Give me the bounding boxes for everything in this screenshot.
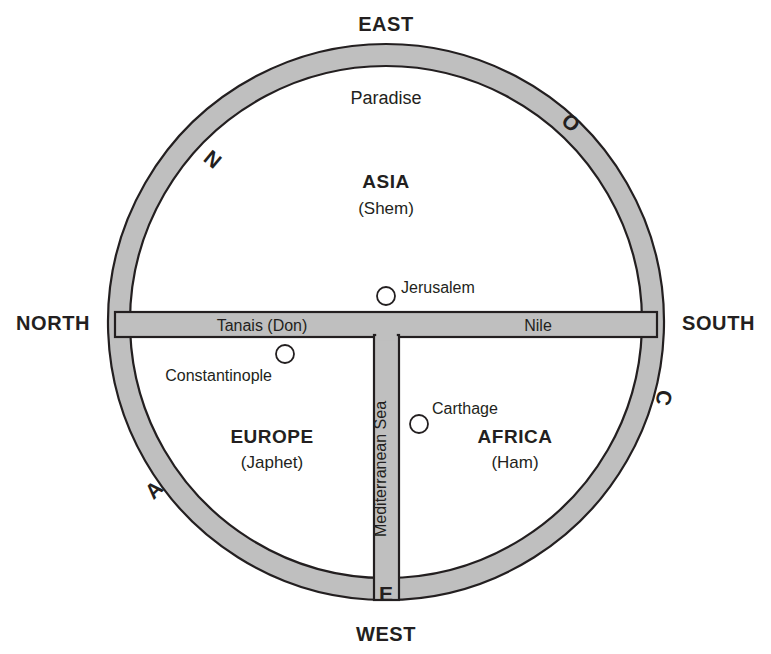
city-marker-jerusalem [377,287,395,305]
city-label-constantinople: Constantinople [165,367,272,384]
ocean-letter-e: E [379,582,393,605]
city-label-jerusalem: Jerusalem [401,279,475,296]
city-label-carthage: Carthage [432,400,498,417]
compass-label-west: WEST [356,623,416,645]
ocean-letter-n: N [200,146,226,173]
t-o-map-svg: EAST WEST NORTH SOUTH O C E A N Paradise… [0,0,771,654]
compass-label-north: NORTH [16,312,90,334]
t-junction-patch [376,314,397,340]
water-label-mediterranean: Mediterranean Sea [372,401,389,537]
continent-son-asia: (Shem) [358,199,414,218]
continent-label-africa: AFRICA [478,426,553,447]
city-marker-constantinople [276,345,294,363]
continent-son-europe: (Japhet) [241,453,303,472]
ocean-letter-c: C [651,388,677,408]
paradise-label: Paradise [350,88,421,108]
continent-son-africa: (Ham) [491,453,538,472]
continent-label-europe: EUROPE [230,426,313,447]
water-label-nile: Nile [524,317,552,334]
continent-label-asia: ASIA [362,171,409,192]
t-o-map-figure: EAST WEST NORTH SOUTH O C E A N Paradise… [0,0,771,654]
city-marker-carthage [410,415,428,433]
compass-label-east: EAST [358,13,414,35]
water-label-tanais: Tanais (Don) [217,317,308,334]
compass-label-south: SOUTH [682,312,755,334]
